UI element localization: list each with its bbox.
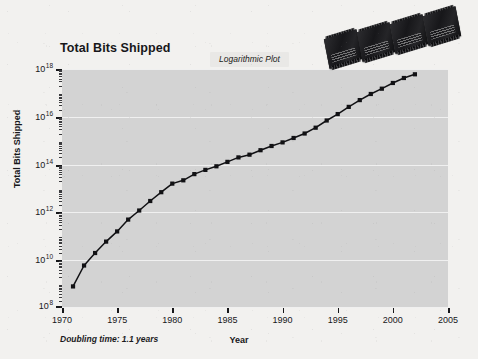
y-axis-ticks: 10810101012101410161018	[0, 69, 62, 308]
data-point-marker	[115, 229, 119, 233]
y-minor-tick	[59, 270, 62, 271]
data-point-marker	[192, 172, 196, 176]
y-minor-tick	[59, 124, 62, 125]
x-tick-1970	[62, 308, 64, 313]
memory-chip-image-4	[423, 6, 461, 46]
data-point-marker	[303, 131, 307, 135]
logarithmic-plot-annotation: Logarithmic Plot	[210, 52, 289, 67]
memory-chip-image-2	[357, 22, 395, 62]
x-tick-label-2000: 2000	[383, 315, 403, 325]
chart-title: Total Bits Shipped	[60, 41, 171, 55]
data-point-marker	[71, 284, 75, 288]
data-point-marker	[336, 112, 340, 116]
x-tick-1990	[283, 308, 285, 313]
y-minor-tick	[59, 261, 62, 262]
y-minor-tick	[59, 192, 62, 193]
data-point-marker	[247, 153, 251, 157]
y-minor-tick	[59, 220, 62, 221]
y-minor-tick	[59, 98, 62, 99]
y-minor-tick	[59, 177, 62, 178]
x-tick-2000	[393, 308, 395, 313]
y-minor-tick	[59, 122, 62, 123]
y-minor-tick	[59, 95, 62, 96]
y-minor-tick	[59, 166, 62, 167]
x-tick-1975	[117, 308, 119, 313]
y-tick-label-12: 1012	[35, 207, 53, 217]
data-point-marker	[347, 105, 351, 109]
data-point-marker	[258, 148, 262, 152]
y-minor-tick	[59, 294, 62, 295]
data-point-marker	[236, 155, 240, 159]
y-minor-tick	[59, 134, 62, 135]
y-minor-tick	[59, 73, 62, 74]
y-minor-tick	[59, 97, 62, 98]
data-point-marker	[369, 92, 373, 96]
x-tick-label-2005: 2005	[438, 315, 458, 325]
y-minor-tick	[59, 288, 62, 289]
y-minor-tick	[59, 285, 62, 286]
data-point-marker	[280, 140, 284, 144]
data-point-marker	[203, 168, 207, 172]
y-minor-tick	[59, 190, 62, 191]
y-minor-tick	[59, 94, 62, 95]
data-point-marker	[104, 240, 108, 244]
y-minor-tick	[59, 237, 62, 238]
y-minor-tick	[59, 142, 62, 143]
x-tick-2005	[448, 308, 450, 313]
y-minor-tick	[59, 146, 62, 147]
plot-area	[62, 69, 448, 308]
x-tick-label-1970: 1970	[52, 315, 72, 325]
y-minor-tick	[59, 153, 62, 154]
y-minor-tick	[59, 266, 62, 267]
x-tick-label-1995: 1995	[328, 315, 348, 325]
x-tick-1985	[227, 308, 229, 313]
y-minor-tick	[59, 76, 62, 77]
y-minor-tick	[59, 215, 62, 216]
x-axis-title: Year	[229, 335, 248, 345]
x-tick-1995	[338, 308, 340, 313]
y-minor-tick	[59, 286, 62, 287]
y-minor-tick	[59, 242, 62, 243]
y-minor-tick	[59, 194, 62, 195]
y-minor-tick	[59, 121, 62, 122]
data-point-marker	[93, 251, 97, 255]
data-point-marker	[148, 199, 152, 203]
data-point-marker	[358, 98, 362, 102]
y-minor-tick	[59, 246, 62, 247]
y-minor-tick	[59, 118, 62, 119]
data-point-marker	[225, 160, 229, 164]
x-tick-1980	[172, 308, 174, 313]
y-minor-tick	[59, 86, 62, 87]
y-minor-tick	[59, 168, 62, 169]
y-minor-tick	[59, 201, 62, 202]
y-minor-tick	[59, 174, 62, 175]
y-minor-tick	[59, 143, 62, 144]
y-minor-tick	[59, 74, 62, 75]
data-point-marker	[314, 126, 318, 130]
y-minor-tick	[59, 222, 62, 223]
data-point-marker	[292, 136, 296, 140]
figure-root: Total Bits Shipped Logarithmic Plot 1081…	[0, 0, 478, 359]
x-tick-label-1985: 1985	[217, 315, 237, 325]
y-minor-tick	[59, 129, 62, 130]
y-minor-tick	[59, 172, 62, 173]
y-minor-tick	[59, 170, 62, 171]
y-minor-tick	[59, 267, 62, 268]
y-minor-tick	[59, 205, 62, 206]
y-minor-tick	[59, 196, 62, 197]
data-series-line	[62, 69, 448, 308]
y-minor-tick	[59, 150, 62, 151]
memory-chip-photos	[326, 8, 476, 70]
x-axis-ticks: 19701975198019851990199520002005	[62, 308, 448, 332]
y-minor-tick	[59, 181, 62, 182]
data-point-marker	[181, 178, 185, 182]
y-tick-label-16: 1016	[35, 112, 53, 122]
data-point-marker	[325, 118, 329, 122]
data-point-marker	[137, 208, 141, 212]
y-minor-tick	[59, 263, 62, 264]
y-minor-tick	[59, 102, 62, 103]
y-axis-title: Total Bits Shipped	[12, 110, 22, 188]
series-line	[73, 74, 415, 286]
y-minor-tick	[59, 289, 62, 290]
y-minor-tick	[59, 264, 62, 265]
